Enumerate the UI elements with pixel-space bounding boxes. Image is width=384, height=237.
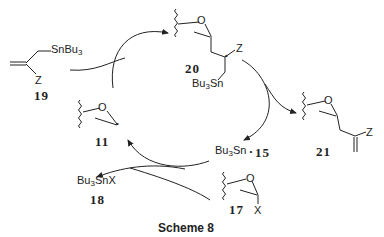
arrow-15-to-11 [128, 140, 209, 166]
compound-number-20: 20 [185, 62, 200, 75]
compound-number-19: 19 [34, 89, 49, 102]
x-label-17: X [254, 205, 261, 216]
z-label-19: Z [35, 75, 42, 86]
compound-number-18: 18 [90, 193, 105, 206]
compound-21-structure [303, 92, 367, 152]
bu3sn-label-20: Bu3Sn [192, 78, 223, 91]
o-label-11: O [98, 102, 107, 113]
o-label-21: O [324, 95, 333, 106]
arrow-20-to-21 [265, 84, 296, 113]
compound-number-21: 21 [316, 145, 331, 158]
o-label-20: O [197, 15, 206, 26]
reaction-cycle-graphics [0, 0, 384, 237]
z-label-21: Z [366, 127, 373, 138]
scheme-title: Scheme 8 [158, 222, 214, 234]
snbu3-label-19: SnBu3 [51, 44, 82, 57]
radical-dot-20: • [225, 52, 228, 60]
bu3sn-radical-label-15: Bu3Sn • [215, 145, 252, 158]
z-label-20: Z [236, 43, 243, 54]
arrow-17-entry [130, 168, 210, 200]
compound-number-17: 17 [229, 203, 244, 216]
arrow-19-entry [70, 58, 125, 70]
scheme-8-diagram: SnBu3 Z 19 O Z • 20 Bu3Sn O Z 21 O • 11 … [0, 0, 384, 237]
arrow-20-to-15 [242, 60, 269, 140]
o-label-17: O [246, 173, 255, 184]
radical-dot-11: • [116, 120, 119, 128]
compound-19-structure [10, 51, 51, 74]
bu3snx-label-18: Bu3SnX [77, 175, 116, 188]
compound-number-15: 15 [255, 146, 270, 159]
compound-number-11: 11 [95, 135, 109, 148]
